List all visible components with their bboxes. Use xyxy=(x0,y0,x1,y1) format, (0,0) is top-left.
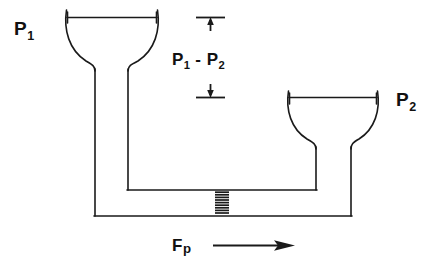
label-dp-sub2: 2 xyxy=(219,59,225,71)
left-funnel-bowl-left-wall xyxy=(66,10,95,71)
left-funnel-reservoir xyxy=(66,10,159,216)
left-funnel-bowl-right-wall xyxy=(128,10,158,71)
diagram-canvas xyxy=(0,0,445,280)
flow-direction-arrow xyxy=(213,240,295,251)
manometer-figure: P1 P2 P1 - P2 Fp xyxy=(0,0,445,280)
label-fp-base: F xyxy=(172,236,183,255)
label-p1-base: P xyxy=(14,18,27,39)
porous-plug xyxy=(215,192,229,213)
label-p2-base: P xyxy=(396,89,409,110)
label-dp-operator: - xyxy=(190,50,207,69)
label-p1: P1 xyxy=(14,18,34,43)
label-dp-base1: P xyxy=(172,50,184,69)
label-p2: P2 xyxy=(396,89,416,114)
label-dp-base2: P xyxy=(207,50,219,69)
label-pressure-difference: P1 - P2 xyxy=(172,50,225,71)
label-p1-subscript: 1 xyxy=(27,29,34,43)
right-funnel-reservoir xyxy=(288,91,379,216)
right-funnel-bowl-right-wall xyxy=(351,91,378,149)
right-funnel-bowl-left-wall xyxy=(288,91,316,149)
label-force: Fp xyxy=(172,236,191,256)
label-p2-subscript: 2 xyxy=(409,100,416,114)
label-fp-subscript: p xyxy=(183,241,192,256)
